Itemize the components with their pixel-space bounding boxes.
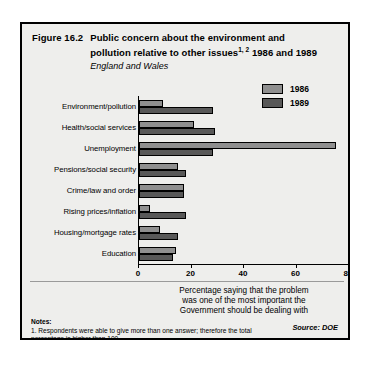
category-label: Rising prices/inflation <box>22 207 136 216</box>
notes-divider <box>30 281 344 282</box>
x-axis-tick-label: 40 <box>239 269 248 278</box>
x-axis-tick <box>296 264 297 268</box>
bar-1986 <box>139 205 150 212</box>
figure-card: Figure 16.2 Public concern about the env… <box>20 22 350 340</box>
x-axis-caption-line-2: was one of the most important the <box>138 296 350 306</box>
bars-region <box>138 96 348 264</box>
x-axis-tick <box>348 264 349 268</box>
x-axis-tick <box>243 264 244 268</box>
figure-subtitle: England and Wales <box>90 60 317 72</box>
x-axis-caption-line-3: Government should be dealing with <box>138 306 350 316</box>
category-label: Unemployment <box>22 144 136 153</box>
category-label: Health/social services <box>22 123 136 132</box>
x-axis-tick-label: 0 <box>136 269 140 278</box>
legend-swatch-icon-1986 <box>262 84 283 94</box>
category-label: Housing/mortgage rates <box>22 228 136 237</box>
x-axis-caption: Percentage saying that the problem was o… <box>138 286 350 317</box>
bar-1989 <box>139 149 213 156</box>
bar-1986 <box>139 247 176 254</box>
category-label: Environment/pollution <box>22 102 136 111</box>
legend-entry-1986: 1986 <box>262 84 309 94</box>
title-line-2: pollution relative to other issues1, 2 1… <box>90 44 317 59</box>
bar-1989 <box>139 233 178 240</box>
x-axis-tick <box>138 264 139 268</box>
plot-area: Environment/pollutionHealth/social servi… <box>22 96 350 284</box>
figure-title: Public concern about the environment and… <box>90 32 317 72</box>
x-axis-tick <box>191 264 192 268</box>
bar-1989 <box>139 128 215 135</box>
bar-1986 <box>139 184 184 191</box>
title-line-1: Public concern about the environment and <box>90 32 317 44</box>
x-axis-tick-label: 60 <box>291 269 300 278</box>
category-label: Crime/law and order <box>22 186 136 195</box>
bar-1989 <box>139 170 186 177</box>
figure-title-block: Figure 16.2 Public concern about the env… <box>32 32 344 72</box>
bar-1989 <box>139 212 186 219</box>
figure-number: Figure 16.2 <box>32 32 90 43</box>
bar-1986 <box>139 121 194 128</box>
bar-1986 <box>139 142 336 149</box>
x-axis-tick-label: 20 <box>186 269 195 278</box>
bar-1989 <box>139 107 213 114</box>
bar-1986 <box>139 100 163 107</box>
bar-1989 <box>139 254 173 261</box>
category-label: Education <box>22 249 136 258</box>
bar-1989 <box>139 191 184 198</box>
bar-1986 <box>139 163 178 170</box>
x-axis-tick-label: 80 <box>344 269 350 278</box>
bar-1986 <box>139 226 160 233</box>
figure-source: Source: DOE <box>292 323 338 332</box>
category-axis: Environment/pollutionHealth/social servi… <box>22 96 136 264</box>
category-label: Pensions/social security <box>22 165 136 174</box>
title-footnote-markers: 1, 2 <box>238 46 249 53</box>
title-years: 1986 and 1989 <box>252 47 317 58</box>
note-line: percentage is higher than 100. <box>31 335 343 340</box>
x-axis-caption-line-1: Percentage saying that the problem <box>138 286 350 296</box>
title-line-2-text: pollution relative to other issues <box>90 47 238 58</box>
legend-label-1986: 1986 <box>290 84 309 94</box>
